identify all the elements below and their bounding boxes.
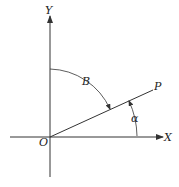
coordinate-diagram: Y X O P B α	[0, 0, 179, 187]
point-p-label: P	[153, 80, 162, 93]
origin-label: O	[39, 136, 48, 149]
x-axis-label: X	[163, 131, 173, 144]
angle-arc-b	[50, 69, 110, 109]
angle-b-label: B	[81, 75, 90, 88]
angle-alpha-label: α	[131, 112, 139, 125]
y-axis-label: Y	[45, 4, 54, 17]
